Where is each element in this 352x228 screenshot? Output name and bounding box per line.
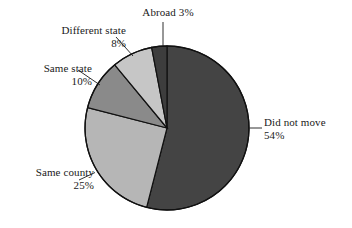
pie-label-same-county-value: 25%	[2, 179, 94, 192]
pie-label-did-not-move: Did not move 54%	[264, 116, 350, 141]
pie-label-abroad: Abroad 3%	[128, 6, 208, 19]
pie-chart-figure: Abroad 3% Different state 8% Same state …	[0, 0, 352, 228]
pie-label-different-state-name: Different state	[61, 24, 126, 36]
pie-label-different-state-value: 8%	[34, 37, 126, 50]
pie-label-same-state: Same state 10%	[8, 62, 92, 87]
pie-label-same-state-value: 10%	[8, 75, 92, 88]
pie-label-different-state: Different state 8%	[34, 24, 126, 49]
pie-label-did-not-move-value: 54%	[264, 129, 350, 142]
pie-label-same-county: Same county 25%	[2, 166, 94, 191]
pie-label-did-not-move-name: Did not move	[264, 116, 326, 128]
pie-slices	[85, 46, 249, 210]
pie-label-same-state-name: Same state	[44, 62, 92, 74]
pie-label-abroad-text: Abroad 3%	[142, 6, 193, 18]
pie-label-same-county-name: Same county	[36, 166, 94, 178]
